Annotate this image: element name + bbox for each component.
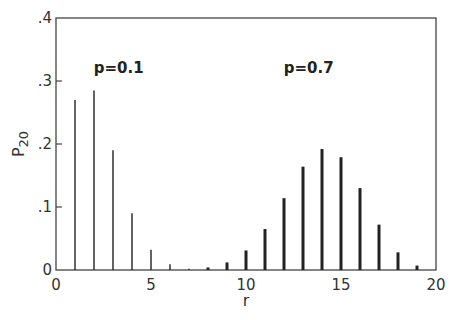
x-tick-label: 5 [146,276,156,294]
y-tick-label: .1 [38,198,52,216]
y-axis-label-main: P [9,147,28,157]
svg-text:P20: P20 [9,131,31,157]
y-axis-label: P20 [9,131,31,157]
y-axis-ticks: 0.1.2.3.4 [38,9,62,279]
y-tick-label: .3 [38,72,52,90]
x-axis-label: r [243,291,250,310]
x-tick-label: 0 [51,276,61,294]
series-annotation: p=0.1 [94,59,144,77]
annotations: p=0.1p=0.7 [94,59,334,77]
y-tick-label: .4 [38,9,52,27]
bars [75,90,417,270]
x-tick-label: 15 [331,276,350,294]
y-axis-label-sub: 20 [16,131,31,148]
x-tick-label: 20 [426,276,445,294]
y-tick-label: .2 [38,135,52,153]
series-annotation: p=0.7 [284,59,334,77]
binomial-distribution-chart: 0.1.2.3.4 05101520 p=0.1p=0.7 r P20 [0,0,456,320]
